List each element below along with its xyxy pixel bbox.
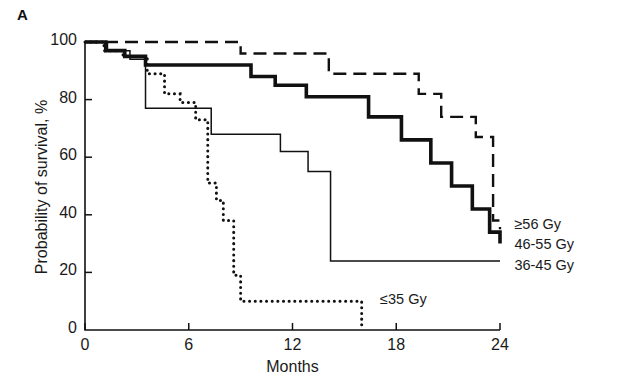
panel-label: A bbox=[17, 6, 28, 23]
x-tick-label: 18 bbox=[376, 336, 416, 354]
y-tick-label: 20 bbox=[31, 261, 77, 279]
x-axis-label: Months bbox=[85, 358, 500, 376]
series-line-46_55 bbox=[85, 42, 500, 244]
series-line-le35 bbox=[85, 42, 362, 330]
series-line-36_45 bbox=[85, 42, 500, 261]
plot-area bbox=[0, 0, 626, 388]
y-tick-label: 80 bbox=[31, 89, 77, 107]
x-tick-label: 0 bbox=[65, 336, 105, 354]
figure-panel-a: A Probability of survival, % Months 0204… bbox=[0, 0, 626, 388]
y-tick-label: 0 bbox=[31, 319, 77, 337]
y-tick-label: 100 bbox=[31, 31, 77, 49]
series-label-ge56: ≥56 Gy bbox=[514, 216, 561, 232]
x-tick-label: 12 bbox=[273, 336, 313, 354]
x-tick-label: 6 bbox=[169, 336, 209, 354]
series-lines bbox=[85, 42, 500, 330]
y-tick-label: 40 bbox=[31, 204, 77, 222]
y-tick-label: 60 bbox=[31, 146, 77, 164]
x-tick-label: 24 bbox=[480, 336, 520, 354]
series-label-le35: ≤35 Gy bbox=[380, 291, 427, 307]
series-label-46_55: 46-55 Gy bbox=[514, 236, 574, 252]
series-label-36_45: 36-45 Gy bbox=[514, 257, 574, 273]
